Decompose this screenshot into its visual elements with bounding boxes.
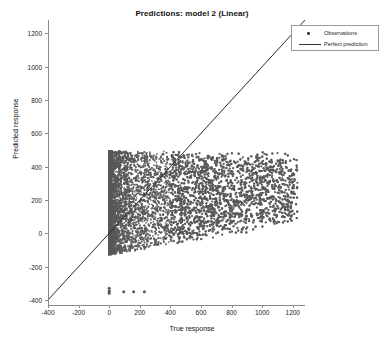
y-tick-label: 400 <box>18 163 42 170</box>
y-tick <box>45 200 48 201</box>
y-tick <box>45 67 48 68</box>
y-tick <box>45 267 48 268</box>
y-tick-label: -400 <box>18 297 42 304</box>
x-tick <box>140 305 141 308</box>
x-tick-label: 200 <box>134 309 145 316</box>
y-tick <box>45 233 48 234</box>
y-tick <box>45 133 48 134</box>
observation-dot-icon <box>307 32 310 35</box>
y-tick-label: 1000 <box>18 63 42 70</box>
y-tick-label: -200 <box>18 263 42 270</box>
y-tick-label: 800 <box>18 97 42 104</box>
legend-line-key <box>296 38 322 51</box>
scatter-plot-figure: Predictions: model 2 (Linear) -400-20002… <box>0 0 384 349</box>
x-tick <box>79 305 80 308</box>
scatter-canvas <box>0 0 384 349</box>
y-tick-label: 600 <box>18 130 42 137</box>
y-tick-label: 200 <box>18 197 42 204</box>
x-tick <box>262 305 263 308</box>
x-tick-label: 1000 <box>255 309 269 316</box>
y-tick-label: 0 <box>18 230 42 237</box>
x-tick <box>293 305 294 308</box>
x-axis-line <box>48 305 305 306</box>
x-tick-label: 1200 <box>286 309 300 316</box>
x-tick <box>232 305 233 308</box>
y-axis-label: Predicted response <box>12 59 19 199</box>
y-tick <box>45 300 48 301</box>
x-tick-label: 600 <box>196 309 207 316</box>
legend-label-observations: Observations <box>324 30 357 36</box>
perfect-prediction-line <box>48 20 305 300</box>
x-tick-label: 800 <box>226 309 237 316</box>
y-tick <box>45 33 48 34</box>
legend-label-perfect-prediction: Perfect prediction <box>324 41 368 47</box>
x-tick <box>109 305 110 308</box>
y-axis-line <box>48 20 49 305</box>
legend-box: Observations Perfect prediction <box>291 25 379 51</box>
legend-item-perfect-prediction: Perfect prediction <box>292 38 378 51</box>
y-tick <box>45 100 48 101</box>
x-tick-label: 400 <box>165 309 176 316</box>
x-tick <box>170 305 171 308</box>
x-tick <box>48 305 49 308</box>
x-tick <box>201 305 202 308</box>
x-tick-label: -400 <box>41 309 54 316</box>
perfect-prediction-line-icon <box>299 44 321 45</box>
x-tick-label: 0 <box>107 309 111 316</box>
x-tick-label: -200 <box>72 309 85 316</box>
y-tick-label: 1200 <box>18 30 42 37</box>
x-axis-label: True response <box>0 325 384 332</box>
y-tick <box>45 167 48 168</box>
outlier-points <box>108 287 146 295</box>
